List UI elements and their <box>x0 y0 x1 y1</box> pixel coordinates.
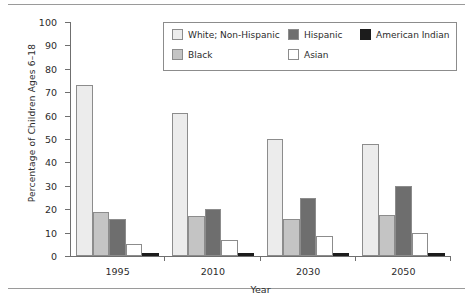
bar <box>172 113 189 256</box>
chart-legend: White; Non-HispanicBlackHispanicAsianAme… <box>163 22 457 71</box>
y-tick-label: 80 <box>45 63 57 74</box>
x-tick <box>450 256 451 261</box>
x-axis-title: Year <box>70 284 451 295</box>
bar <box>142 253 159 257</box>
legend-label: White; Non-Hispanic <box>188 30 280 40</box>
y-tick: 70 <box>65 92 70 93</box>
y-axis-line <box>70 22 71 257</box>
bar <box>205 209 222 256</box>
y-tick: 50 <box>65 139 70 140</box>
bar <box>93 212 110 256</box>
bar <box>428 253 445 257</box>
bar <box>267 139 284 256</box>
y-tick-label: 0 <box>51 251 57 262</box>
y-tick-label: 50 <box>45 134 57 145</box>
x-tick-label: 2030 <box>296 266 320 277</box>
bar <box>379 215 396 256</box>
x-axis-line <box>70 256 451 257</box>
x-tick-label: 2050 <box>391 266 415 277</box>
legend-swatch-icon <box>360 29 371 40</box>
x-tick-label: 2010 <box>201 266 225 277</box>
y-tick-label: 20 <box>45 204 57 215</box>
legend-item: Asian <box>288 49 329 60</box>
y-tick: 0 <box>65 256 70 257</box>
y-tick: 10 <box>65 233 70 234</box>
y-tick: 80 <box>65 69 70 70</box>
x-tick <box>260 256 261 261</box>
y-tick-label: 10 <box>45 227 57 238</box>
bar <box>188 216 205 256</box>
legend-item: American Indian <box>360 29 449 40</box>
y-tick: 20 <box>65 209 70 210</box>
bar <box>333 253 350 257</box>
bar <box>109 219 126 256</box>
legend-item: White; Non-Hispanic <box>172 29 280 40</box>
legend-swatch-icon <box>288 49 299 60</box>
y-tick-label: 30 <box>45 180 57 191</box>
y-tick: 90 <box>65 45 70 46</box>
legend-swatch-icon <box>172 49 183 60</box>
y-axis-title: Percentage of Children Ages 6–18 <box>27 23 37 223</box>
y-tick: 60 <box>65 116 70 117</box>
bar <box>283 219 300 256</box>
bar <box>300 198 317 257</box>
legend-label: Asian <box>304 50 329 60</box>
bar-chart-figure: Percentage of Children Ages 6–18 0102030… <box>8 10 465 282</box>
legend-label: American Indian <box>376 30 449 40</box>
x-tick-label: 1995 <box>106 266 130 277</box>
bar <box>395 186 412 256</box>
legend-item: Hispanic <box>288 29 342 40</box>
legend-label: Hispanic <box>304 30 342 40</box>
bar <box>362 144 379 256</box>
y-tick: 40 <box>65 162 70 163</box>
y-tick-label: 60 <box>45 110 57 121</box>
bar <box>412 233 429 256</box>
y-tick-label: 40 <box>45 157 57 168</box>
legend-label: Black <box>188 50 212 60</box>
bar <box>76 85 93 256</box>
y-tick-label: 90 <box>45 40 57 51</box>
top-divider <box>8 4 465 5</box>
y-tick: 100 <box>65 22 70 23</box>
x-tick <box>164 256 165 261</box>
bar <box>316 236 333 256</box>
legend-swatch-icon <box>288 29 299 40</box>
y-tick-label: 100 <box>39 17 57 28</box>
bar <box>126 244 143 256</box>
bar <box>238 253 255 257</box>
legend-item: Black <box>172 49 212 60</box>
y-tick: 30 <box>65 186 70 187</box>
x-tick <box>355 256 356 261</box>
y-tick-label: 70 <box>45 87 57 98</box>
bar <box>221 240 238 256</box>
legend-swatch-icon <box>172 29 183 40</box>
